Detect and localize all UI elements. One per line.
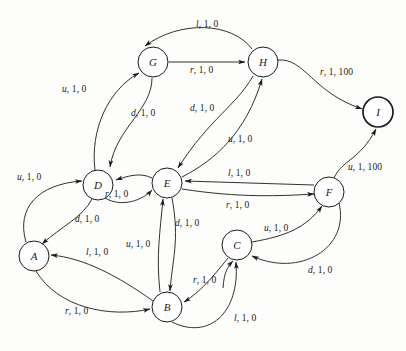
edge-label-F-E-l: l, 1, 0 [228,169,250,179]
edge-cost-reward: , 1, 0 [313,265,333,275]
edge-label-B-E-u: u, 1, 0 [126,240,150,250]
edge-label-B-C-l: l, 1, 0 [234,314,256,324]
edge-cost-reward: , 1, 0 [69,306,89,316]
edge-cost-reward: , 1, 0 [80,214,100,224]
edge-cost-reward: , 1, 0 [67,84,87,94]
edge-cost-reward: , 1, 0 [109,189,129,199]
graph-canvas: A B C D E F G [0,0,406,351]
edge-cost-reward: , 1, 0 [230,200,250,210]
node-label-F: F [325,186,333,198]
node-C[interactable]: C [222,230,252,260]
edge-cost-reward: , 1, 0 [233,134,253,144]
edge-cost-reward: , 1, 100 [324,67,353,77]
node-label-A: A [30,250,38,262]
edge-A-B-r [36,271,150,312]
edge-cost-reward: , 1, 100 [353,162,382,172]
edge-cost-reward: , 1, 0 [22,172,42,182]
edge-stub-C-in [223,261,233,288]
edge-label-A-B-r: r, 1, 0 [65,307,88,317]
edge-F-E-l [185,181,314,185]
edge-E-B-d [170,198,175,291]
edge-label-E-B-d: d, 1, 0 [175,219,199,229]
edge-label-D-E-r: r, 1, 0 [105,190,128,200]
state-transition-diagram: A B C D E F G [0,0,406,351]
edge-E-F-r [182,189,314,196]
edge-cost-reward: , 1, 0 [136,108,156,118]
node-A[interactable]: A [19,241,49,271]
edge-label-F-C-d: d, 1, 0 [308,266,332,276]
edge-label-F-I-u: u, 1, 100 [348,163,382,173]
edge-label-C-B-r: r, 1, 0 [193,276,216,286]
edge-cost-reward: , 1, 0 [197,275,217,285]
edge-label-G-H-r: r, 1, 0 [190,66,213,76]
node-F[interactable]: F [314,177,344,207]
edge-cost-reward: , 1, 0 [180,218,200,228]
edge-label-E-H-u: u, 1, 0 [228,135,252,145]
node-I[interactable]: I [363,97,393,127]
node-label-B: B [164,301,171,313]
edge-label-D-A-d: d, 1, 0 [75,215,99,225]
node-label-H: H [258,56,268,68]
edge-cost-reward: , 1, 0 [269,223,289,233]
edge-label-H-E-d: d, 1, 0 [190,104,214,114]
edge-label-D-G-u: u, 1, 0 [62,85,86,95]
edge-cost-reward: , 1, 0 [199,19,219,29]
edge-cost-reward: , 1, 0 [237,313,257,323]
edge-cost-reward: , 1, 0 [231,168,251,178]
edge-E-H-u [182,79,262,177]
edge-label-E-F-r: r, 1, 0 [226,201,249,211]
node-label-C: C [233,239,241,251]
edge-B-A-l [51,255,153,301]
edge-cost-reward: , 1, 0 [89,247,109,257]
node-H[interactable]: H [248,47,278,77]
edge-label-C-F-u: u, 1, 0 [264,224,288,234]
node-label-D: D [93,179,102,191]
node-E[interactable]: E [152,168,182,198]
edge-B-E-u [158,199,163,292]
node-label-E: E [163,177,171,189]
edge-cost-reward: , 1, 0 [195,103,215,113]
edge-label-B-A-l: l, 1, 0 [86,248,108,258]
edge-cost-reward: , 1, 0 [194,65,214,75]
edge-B-C-l [172,262,236,328]
edge-E-D [116,175,152,180]
edge-label-H-I-r: r, 1, 100 [320,68,353,78]
edge-A-D-u [24,181,82,242]
edge-label-A-D-u: u, 1, 0 [17,173,41,183]
edge-H-G-l [145,28,252,49]
node-label-G: G [149,56,157,68]
node-B[interactable]: B [152,292,182,322]
edge-label-G-H-l: l, 1, 0 [196,20,218,30]
edge-label-G-D-d: d, 1, 0 [131,109,155,119]
node-G[interactable]: G [138,47,168,77]
edge-cost-reward: , 1, 0 [131,239,151,249]
